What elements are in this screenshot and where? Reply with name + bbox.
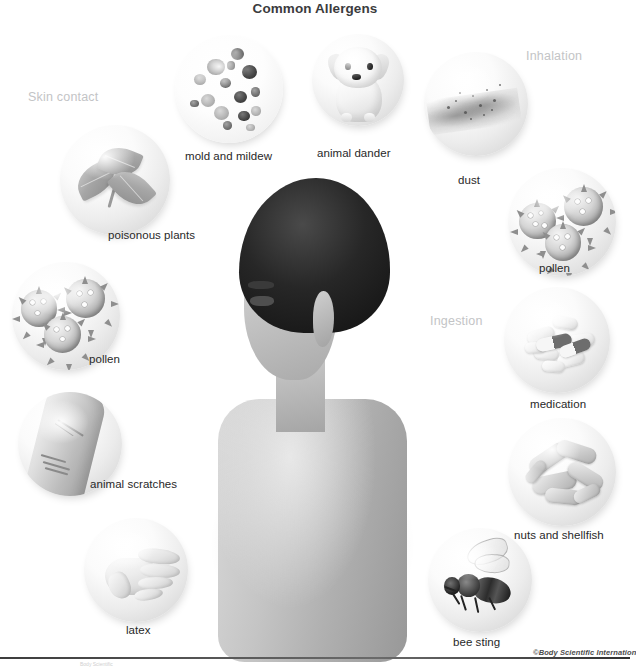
label-latex: latex	[126, 624, 151, 636]
bottom-credit-sub: Body Scientific	[80, 661, 113, 667]
label-poisonous-plants: poisonous plants	[108, 229, 195, 241]
mold-spores-icon	[175, 35, 283, 143]
puppy-icon	[312, 34, 404, 126]
copyright-credit: ©Body Scientific Internation	[533, 648, 636, 657]
label-mold-and-mildew: mold and mildew	[185, 150, 272, 162]
gloved-hand-icon	[84, 518, 188, 622]
dust-cloud-icon	[424, 52, 528, 156]
label-animal-dander: animal dander	[317, 147, 391, 159]
label-medication: medication	[530, 398, 586, 410]
poison-ivy-leaf-icon	[60, 125, 170, 235]
label-pollen-right: pollen	[539, 262, 570, 274]
label-bee-sting: bee sting	[453, 636, 500, 648]
category-skin-contact: Skin contact	[28, 90, 99, 104]
bee-icon	[428, 528, 532, 632]
pollen-grains-icon-right	[508, 168, 616, 276]
label-dust: dust	[458, 174, 480, 186]
central-boy-illustration	[205, 178, 420, 648]
label-pollen-left: pollen	[89, 353, 120, 365]
bottom-divider	[0, 657, 630, 659]
pills-icon	[504, 287, 610, 393]
category-ingestion: Ingestion	[430, 314, 483, 328]
page-title: Common Allergens	[0, 0, 630, 17]
label-animal-scratches: animal scratches	[90, 478, 177, 490]
category-inhalation: Inhalation	[526, 49, 582, 63]
peanuts-icon	[508, 418, 616, 526]
